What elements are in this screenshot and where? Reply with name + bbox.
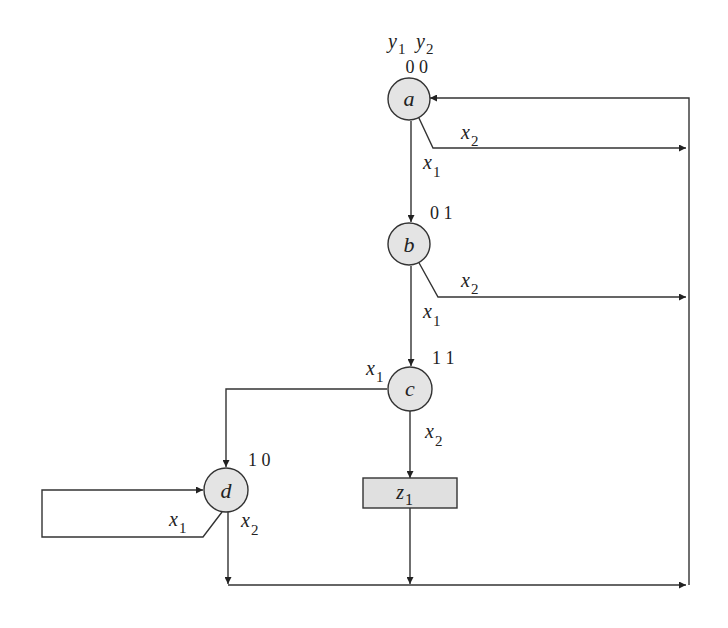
svg-text:x: x [168, 508, 178, 530]
svg-text:2: 2 [471, 281, 479, 297]
label-a-x1: x 1 [422, 151, 440, 180]
label-d-x2: x 2 [240, 509, 258, 538]
output-z1-sub: 1 [405, 491, 413, 508]
state-c-label: c [405, 376, 415, 401]
edge-a-x2 [418, 116, 686, 148]
state-d-label: d [221, 478, 233, 503]
svg-text:2: 2 [435, 433, 443, 449]
state-a-code: 0 0 [406, 57, 429, 77]
svg-text:1: 1 [433, 164, 441, 180]
svg-text:2: 2 [426, 41, 434, 57]
svg-text:x: x [422, 300, 432, 322]
state-d-code: 1 0 [248, 450, 271, 470]
output-z1: z 1 [363, 478, 457, 508]
svg-text:x: x [460, 121, 470, 143]
feedback-bus [430, 98, 689, 585]
edge-b-x2 [418, 261, 686, 297]
svg-text:2: 2 [471, 133, 479, 149]
state-b-label: b [404, 232, 415, 257]
edge-d-self [42, 490, 222, 537]
svg-text:1: 1 [376, 369, 384, 385]
state-a: a [388, 78, 430, 120]
svg-text:y: y [386, 30, 397, 53]
state-b: b [388, 223, 430, 265]
svg-text:x: x [240, 509, 250, 531]
state-c-code: 1 1 [432, 348, 455, 368]
svg-text:2: 2 [251, 522, 259, 538]
state-a-label: a [404, 86, 415, 111]
state-variable-header: y 1 y 2 [386, 30, 433, 57]
label-d-x1: x 1 [168, 508, 186, 536]
label-b-x2: x 2 [460, 269, 478, 297]
state-c: c [388, 367, 432, 411]
svg-text:1: 1 [398, 41, 406, 57]
svg-text:x: x [460, 269, 470, 291]
label-b-x1: x 1 [422, 300, 440, 329]
label-a-x2: x 2 [460, 121, 478, 149]
svg-text:x: x [424, 420, 434, 442]
output-z1-label: z [395, 481, 404, 503]
state-b-code: 0 1 [430, 203, 453, 223]
svg-text:1: 1 [179, 520, 187, 536]
state-d: d [204, 468, 248, 512]
label-c-x1: x 1 [365, 357, 383, 385]
svg-text:x: x [365, 357, 375, 379]
svg-text:y: y [414, 30, 425, 53]
asm-diagram: a b c d z 1 y 1 y 2 0 0 0 1 1 1 1 0 x 1 … [0, 0, 728, 628]
svg-text:1: 1 [433, 313, 441, 329]
label-c-x2: x 2 [424, 420, 442, 449]
svg-text:x: x [422, 151, 432, 173]
